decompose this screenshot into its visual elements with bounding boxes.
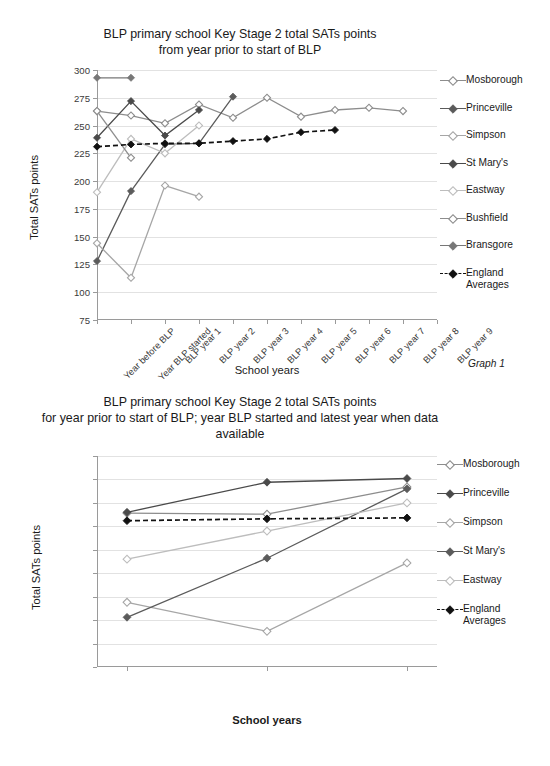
legend-label: Simpson [463,516,503,528]
x-tick-label: BLP year 3 [251,326,290,365]
chart2-series-layer [97,456,437,667]
series-marker [229,114,236,121]
series-marker [123,613,131,621]
series-marker [195,193,202,200]
y-tick-mark [93,456,97,457]
series-line [127,489,407,617]
x-tick-mark [165,320,166,324]
y-tick-mark [93,620,97,621]
y-tick-mark [93,264,97,265]
legend-marker-icon [440,240,466,252]
legend-marker-icon [440,213,466,225]
y-tick-mark [93,550,97,551]
legend-item-simpson[interactable]: Simpson [437,516,503,529]
y-tick-label: 75 [79,315,90,326]
legend-label: St Mary's [466,157,508,169]
y-tick-mark [93,153,97,154]
x-tick-mark [199,320,200,324]
chart1-x-axis-label: School years [97,364,437,376]
series-marker [123,598,131,606]
series-marker [403,499,411,507]
page-root: BLP primary school Key Stage 2 total SAT… [0,0,550,766]
y-tick-mark [93,644,97,645]
x-tick-mark [127,667,128,671]
series-line [127,563,407,631]
legend-item-princeville[interactable]: Princeville [440,102,512,115]
legend-label: England Averages [463,603,506,628]
chart2-title-line2: for year prior to start of BLP; year BLP… [40,410,440,426]
legend-marker-icon [440,158,466,170]
x-tick-label: BLP year 8 [421,326,460,365]
y-tick-mark [93,667,97,668]
legend-label: Eastway [463,574,502,586]
x-tick-mark [369,320,370,324]
legend-label: Princeville [466,102,512,114]
legend-item-eastway[interactable]: Eastway [440,184,505,197]
legend-item-bransgore[interactable]: Bransgore [440,239,513,252]
y-tick-label: 300 [74,65,90,76]
legend-marker-icon [437,459,463,471]
series-line [97,111,131,158]
x-tick-label: BLP year 2 [217,326,256,365]
y-tick-mark [93,573,97,574]
legend-item-mosborough[interactable]: Mosborough [437,458,520,471]
y-tick-mark [93,503,97,504]
legend-label: Bushfield [466,212,508,224]
legend-label: Simpson [466,129,506,141]
chart1-plot-area [97,70,437,320]
x-tick-mark [335,320,336,324]
chart-graph-2: BLP primary school Key Stage 2 total SAT… [0,385,550,766]
x-tick-mark [403,320,404,324]
chart1-title-line2: from year prior to start of BLP [40,42,440,58]
series-marker [403,514,411,522]
series-marker [263,554,271,562]
y-tick-label: 225 [74,148,90,159]
legend-label: Eastway [466,184,505,196]
y-tick-label: 275 [74,92,90,103]
series-marker [93,189,100,196]
x-tick-mark [301,320,302,324]
chart2-title-line3: available [40,426,440,442]
y-tick-label: 250 [74,120,90,131]
legend-item-simpson[interactable]: Simpson [440,129,506,142]
legend-item-st-mary-s[interactable]: St Mary's [440,157,508,170]
legend-item-england[interactable]: England Averages [440,267,509,292]
legend-marker-icon [440,75,466,87]
chart1-title: BLP primary school Key Stage 2 total SAT… [40,26,440,58]
series-marker [229,138,236,145]
series-marker [127,74,134,81]
y-tick-mark [93,126,97,127]
legend-item-mosborough[interactable]: Mosborough [440,74,523,87]
legend-marker-icon [440,103,466,115]
chart2-title: BLP primary school Key Stage 2 total SAT… [40,394,440,442]
legend-item-bushfield[interactable]: Bushfield [440,212,508,225]
series-marker [403,475,411,483]
legend-item-st-mary-s[interactable]: St Mary's [437,545,505,558]
chart2-title-line1: BLP primary school Key Stage 2 total SAT… [40,394,440,410]
series-marker [263,627,271,635]
legend-item-princeville[interactable]: Princeville [437,487,509,500]
legend-item-eastway[interactable]: Eastway [437,574,502,587]
x-tick-mark [233,320,234,324]
y-tick-label: 200 [74,176,90,187]
x-tick-mark [267,320,268,324]
chart1-series-layer [97,70,437,320]
series-marker [263,478,271,486]
series-marker [263,94,270,101]
y-tick-mark [93,70,97,71]
x-tick-label: BLP year 5 [319,326,358,365]
graph1-caption: Graph 1 [468,358,505,369]
series-line [97,98,403,124]
legend-marker-icon [437,575,463,587]
y-tick-mark [93,597,97,598]
series-marker [161,120,168,127]
legend-item-england[interactable]: England Averages [437,603,506,628]
y-tick-label: 175 [74,203,90,214]
y-tick-label: 150 [74,231,90,242]
y-tick-mark [93,98,97,99]
legend-label: Mosborough [466,74,523,86]
legend-label: St Mary's [463,545,505,557]
x-tick-label: BLP year 6 [353,326,392,365]
y-tick-mark [93,237,97,238]
series-marker [93,74,100,81]
